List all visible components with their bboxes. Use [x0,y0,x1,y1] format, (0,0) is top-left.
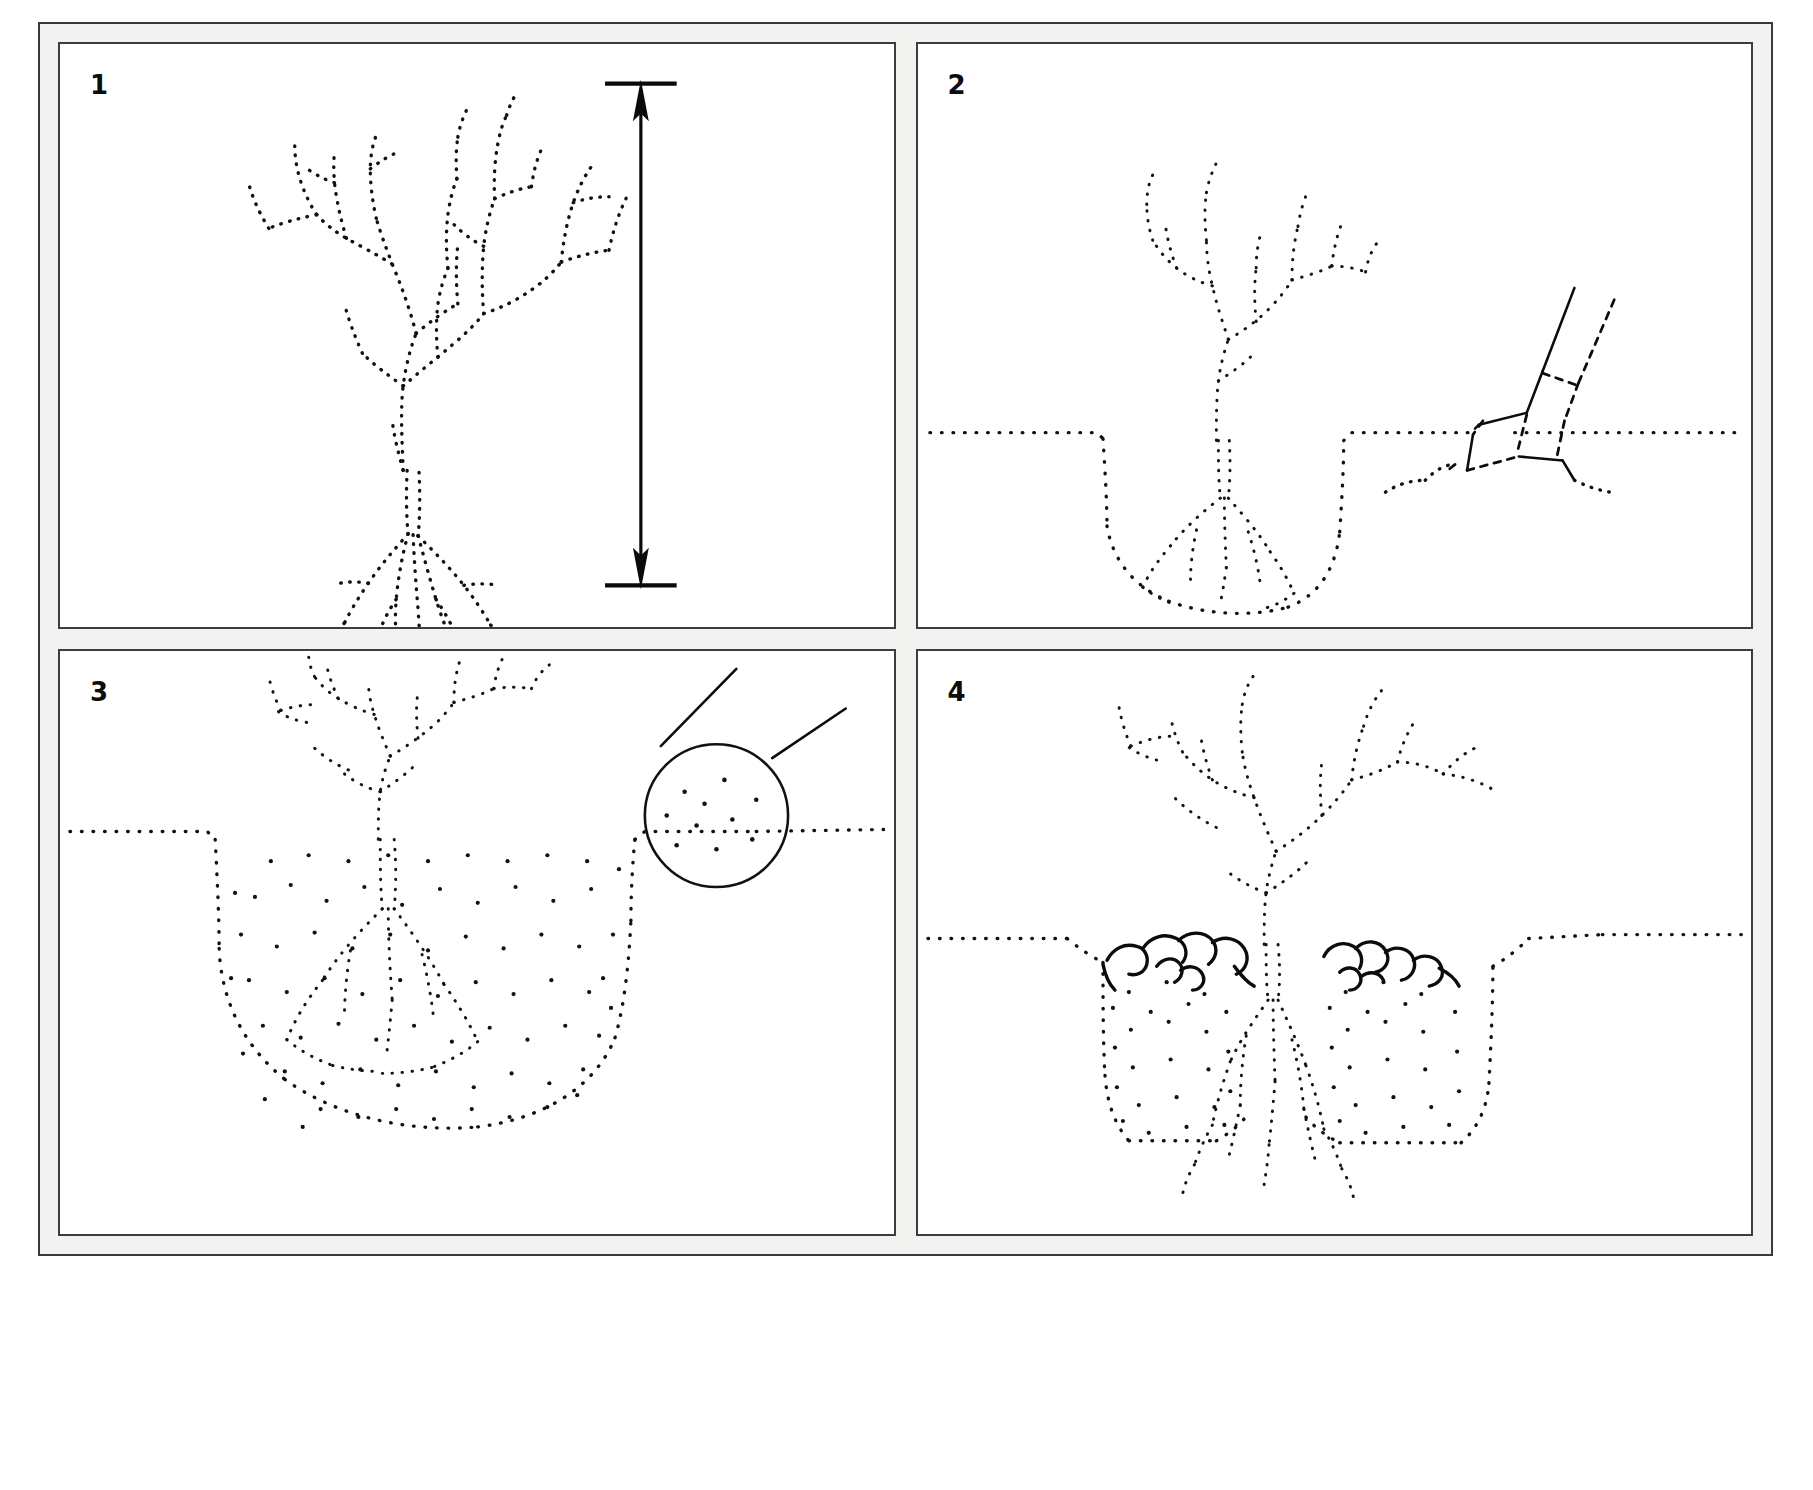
ground-line-3 [70,829,884,1128]
spade-tool-2 [1385,288,1614,492]
magnifier-callout-3 [645,669,846,887]
shrub-top-branches-3 [269,653,549,839]
magnifier-soil-specks [664,778,758,852]
shrub-stem-3 [380,839,395,908]
shrub-top-branches-4 [1118,675,1496,945]
panel-2-drawing [918,44,1752,627]
soil-stipple-3 [229,853,621,1129]
ground-line-4 [927,935,1741,939]
root-system-4 [1182,1000,1353,1198]
panel-1-drawing [60,44,894,627]
ground-line-2 [929,433,1739,614]
mulch-layer-4 [1103,933,1459,990]
panel-2[interactable]: 2 [916,42,1754,629]
panel-4-drawing [918,651,1752,1234]
panel-3[interactable]: 3 [58,649,896,1236]
shrub-stem-4 [1266,944,1279,1000]
shrub-stem-1 [406,470,419,535]
panel-grid: 1 [58,42,1753,1236]
panel-1[interactable]: 1 [58,42,896,629]
height-dimension-arrow-1 [605,80,677,590]
shrub-stem-2 [1218,441,1230,499]
soil-stipple-4 [1110,980,1460,1135]
figure-root: 1 [0,0,1813,1490]
root-ball-2 [1142,498,1293,609]
shrub-top-branches-1 [248,92,627,471]
shrub-top-branches-2 [1146,163,1377,441]
panel-4[interactable]: 4 [916,649,1754,1236]
root-system-1 [327,534,511,627]
panel-3-drawing [60,651,894,1234]
